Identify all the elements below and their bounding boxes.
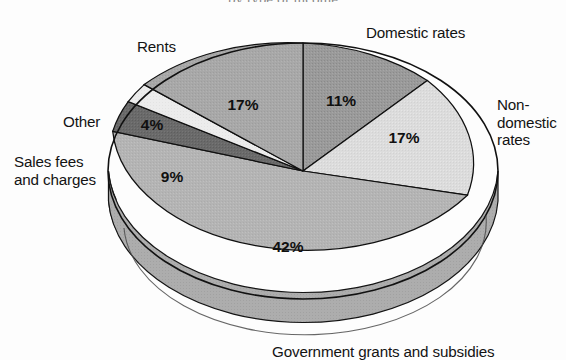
category-label-non-domestic-rates: Non- domestic rates [497, 96, 557, 149]
category-label-domestic-rates: Domestic rates [366, 24, 465, 42]
category-label-sales-fees-and-charges: Sales fees and charges [14, 153, 96, 188]
data-label-sales-fees: 9% [161, 168, 184, 185]
data-label-government-grants: 42% [272, 238, 303, 255]
data-label-non-domestic-rates: 17% [388, 129, 419, 146]
data-label-other: 4% [141, 116, 164, 133]
pie-slices [113, 43, 474, 251]
category-label-rents: Rents [137, 38, 176, 56]
data-label-rents: 17% [227, 96, 258, 113]
category-label-other: Other [63, 113, 100, 131]
pie-chart-figure: by type of income [0, 0, 566, 360]
data-label-domestic-rates: 11% [326, 92, 356, 109]
category-label-government-grants: Government grants and subsidies [272, 343, 494, 360]
